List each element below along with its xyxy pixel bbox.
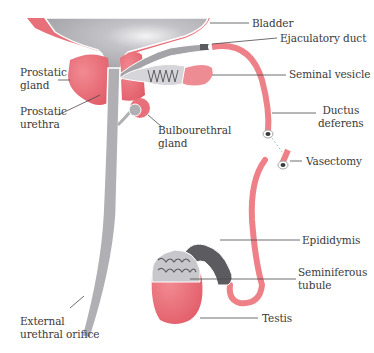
label-vasectomy: Vasectomy [306, 155, 362, 168]
label-testis: Testis [262, 312, 292, 325]
label-prostatic-urethra: Prostatic urethra [20, 105, 67, 131]
prostatic-gland [68, 54, 112, 105]
vasectomy-gap [272, 138, 282, 152]
label-bladder: Bladder [252, 17, 293, 30]
male-reproductive-system-diagram [0, 0, 374, 353]
ductus-deferens-upper [212, 46, 268, 132]
label-ductus-deferens: Ductus deferens [318, 104, 364, 130]
label-bulbourethral-gland: Bulbourethral gland [158, 124, 231, 150]
label-seminal-vesicle: Seminal vesicle [289, 68, 370, 81]
label-ejaculatory-duct: Ejaculatory duct [280, 32, 366, 45]
label-prostatic-gland: Prostatic gland [20, 66, 67, 92]
label-external-urethral-orifice: External urethral orifice [20, 315, 99, 341]
urethra [82, 68, 120, 338]
label-seminiferous-tubule: Seminiferous tubule [298, 266, 367, 292]
label-epididymis: Epididymis [302, 234, 360, 247]
bulbourethral-gland-duct [118, 112, 130, 125]
ductus-deferens-lower [230, 160, 265, 303]
